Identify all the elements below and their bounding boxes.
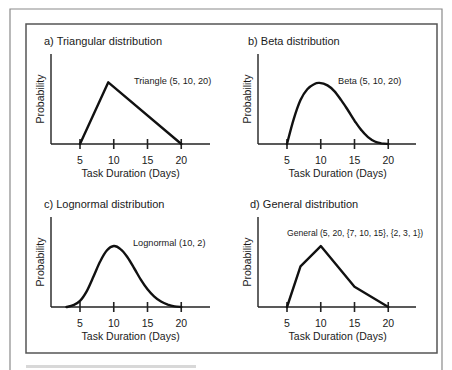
figure: a) Triangular distributionProbability510…: [0, 0, 452, 370]
panel-title: d) General distribution: [250, 198, 358, 210]
outer-frame: [10, 9, 442, 370]
x-tick-label: 20: [175, 317, 187, 329]
caption-placeholder: [26, 365, 196, 368]
y-axis-label: Probability: [241, 237, 253, 287]
series-line: [80, 82, 181, 144]
panel-general: d) General distributionProbability510152…: [241, 198, 423, 342]
series-annotation: Beta (5, 10, 20): [338, 76, 401, 86]
x-axis-label: Task Duration (Days): [289, 330, 387, 342]
x-tick-label: 10: [315, 317, 327, 329]
x-tick-label: 10: [315, 154, 327, 166]
panel-beta: b) Beta distributionProbability5101520Ta…: [241, 35, 416, 179]
x-tick-label: 15: [349, 154, 361, 166]
x-axis-label: Task Duration (Days): [82, 167, 180, 179]
x-axis-label: Task Duration (Days): [289, 167, 387, 179]
panel-triangular: a) Triangular distributionProbability510…: [34, 35, 211, 179]
panel-title: c) Lognormal distribution: [44, 198, 164, 210]
series-annotation: Triangle (5, 10, 20): [134, 76, 211, 86]
x-tick-label: 5: [284, 154, 290, 166]
y-axis-label: Probability: [34, 237, 46, 287]
x-tick-label: 5: [77, 317, 83, 329]
series-annotation: Lognormal (10, 2): [133, 238, 206, 248]
panel-title: a) Triangular distribution: [44, 35, 162, 47]
series-line: [287, 83, 388, 144]
panel-title: b) Beta distribution: [248, 35, 340, 47]
panel-lognormal: c) Lognormal distributionProbability5101…: [34, 198, 210, 342]
y-axis-label: Probability: [34, 74, 46, 124]
x-axis-label: Task Duration (Days): [82, 330, 180, 342]
x-tick-label: 10: [108, 154, 120, 166]
x-tick-label: 5: [284, 317, 290, 329]
series-line: [287, 246, 388, 307]
x-tick-label: 10: [108, 317, 120, 329]
x-tick-label: 20: [175, 154, 187, 166]
x-tick-label: 15: [142, 154, 154, 166]
figure-box: [26, 24, 437, 353]
x-tick-label: 15: [349, 317, 361, 329]
x-tick-label: 5: [77, 154, 83, 166]
x-tick-label: 20: [382, 154, 394, 166]
x-tick-label: 20: [382, 317, 394, 329]
series-annotation: General (5, 20, {7, 10, 15}, {2, 3, 1}): [287, 228, 423, 238]
y-axis-label: Probability: [241, 74, 253, 124]
x-tick-label: 15: [142, 317, 154, 329]
series-line: [67, 246, 182, 307]
